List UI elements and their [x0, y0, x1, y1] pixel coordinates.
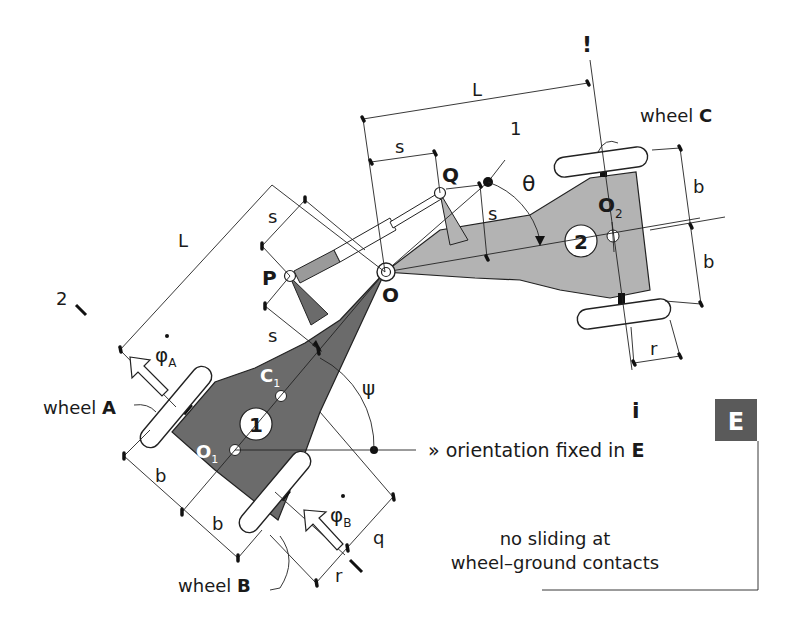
label-dim-b-c-lower: b	[703, 251, 714, 272]
label-dim-s-right: s	[488, 203, 497, 224]
label-dim-L-top: L	[472, 79, 482, 100]
label-dim-s-top: s	[395, 136, 404, 157]
joint-O-inner	[382, 268, 391, 277]
label-dim-r-b: r	[335, 565, 343, 586]
phi-B-dot	[341, 494, 345, 498]
label-wheel-B: wheel B	[178, 575, 251, 596]
label-dim-L-left: L	[178, 230, 188, 251]
axis-2-dash-upper	[76, 305, 86, 315]
label-wheel-C: wheel C	[640, 105, 712, 126]
phi-A-dot	[165, 334, 169, 338]
label-O: O	[382, 283, 399, 307]
note-line-1: no sliding at	[500, 528, 611, 549]
label-dim-s-lower-left: s	[268, 325, 277, 346]
frame-E-label: E	[728, 408, 744, 436]
wheel-A-leader	[134, 405, 156, 412]
dim-L-left-line	[120, 185, 272, 350]
vehicle-diagram: E O2 2 C1 O1	[0, 0, 796, 629]
cylinder-barrel	[294, 250, 340, 283]
label-orientation: » orientation fixed in E	[428, 439, 644, 461]
label-wheel-A: wheel A	[43, 397, 116, 418]
label-phi-B: φB	[330, 503, 351, 530]
label-dim-b-ab-lower: b	[212, 513, 223, 534]
label-dim-b-c-upper: b	[693, 176, 704, 197]
axis-mark-top: !	[582, 32, 592, 57]
body-1-bracket	[290, 277, 328, 325]
label-theta: θ	[522, 171, 535, 196]
label-axis-2: 2	[56, 288, 67, 309]
axis-mark-bottom: i	[632, 398, 640, 423]
label-dim-s-upper-left: s	[268, 206, 277, 227]
label-dim-b-ab-upper: b	[155, 465, 166, 486]
label-dim-q: q	[373, 527, 384, 548]
axis-2-dash-lower	[350, 560, 362, 572]
label-P: P	[262, 266, 277, 290]
label-Q: Q	[442, 163, 459, 187]
cylinder-rod	[390, 192, 443, 228]
label-dim-r-c: r	[650, 338, 658, 359]
wheel-B-leader	[270, 536, 289, 590]
label-phi-A: φA	[155, 343, 177, 370]
label-psi: ψ	[362, 376, 375, 400]
body-2-number: 2	[574, 230, 588, 254]
label-axis-1: 1	[510, 118, 521, 139]
note-line-2: wheel–ground contacts	[451, 552, 659, 573]
